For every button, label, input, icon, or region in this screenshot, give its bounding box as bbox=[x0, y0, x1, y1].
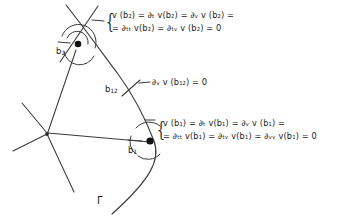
node-label-b12: b12 bbox=[105, 85, 118, 94]
annotation-b12-condition: ∂ᵥ v (b₁₂) = 0 bbox=[152, 78, 207, 87]
node-dot-junction bbox=[45, 132, 49, 136]
b1-condition-line-1: v (b₁) = ∂ₜ v(b₁) = ∂ᵥ v (b₁) = bbox=[163, 119, 317, 128]
edge-b2-upper-branch bbox=[60, 6, 98, 62]
edge-junction-stub-upleft bbox=[22, 103, 47, 133]
annotation-b1-conditions: v (b₁) = ∂ₜ v(b₁) = ∂ᵥ v (b₁) = = ∂ₜₜ v(… bbox=[163, 119, 317, 141]
edge-junction-stub-left bbox=[13, 134, 47, 151]
b2-condition-line-2: = ∂ₜₜ v(b₂) = ∂ₜᵥ v (b₂) = 0 bbox=[112, 24, 234, 33]
leader-b2 bbox=[92, 20, 104, 21]
node-label-b1: b1 bbox=[128, 146, 137, 155]
arc-b1-lower bbox=[138, 154, 160, 159]
curve-label-gamma: Γ bbox=[97, 196, 103, 207]
arc-b2-left-tick bbox=[58, 42, 70, 43]
annotation-b2-conditions: v (b₂) = ∂ₜ v(b₂) = ∂ᵥ v (b₂) = = ∂ₜₜ v(… bbox=[112, 11, 234, 33]
leader-b12 bbox=[139, 82, 150, 83]
node-label-b2: b2 bbox=[56, 47, 65, 56]
b2-condition-line-1: v (b₂) = ∂ₜ v(b₂) = ∂ᵥ v (b₂) = bbox=[112, 11, 234, 20]
node-dot-b2 bbox=[75, 41, 82, 48]
arc-b2-lower bbox=[64, 52, 94, 65]
edge-junction-stub-downright bbox=[47, 134, 74, 192]
figure-canvas: b2 { v (b₂) = ∂ₜ v(b₂) = ∂ᵥ v (b₂) = = ∂… bbox=[0, 0, 339, 222]
b1-condition-line-2: = ∂ₜₜ v(b₁) = ∂ₜᵥ v(b₁) = ∂ᵥᵥ v(b₁) = 0 bbox=[163, 132, 317, 141]
diagram-graphic bbox=[0, 0, 339, 222]
node-dot-b1 bbox=[146, 137, 153, 144]
